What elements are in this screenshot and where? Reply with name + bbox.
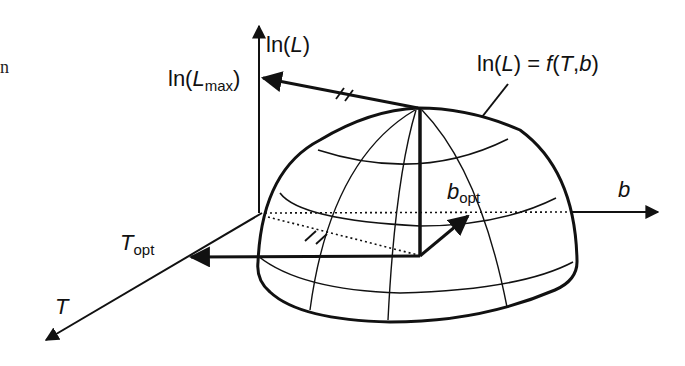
ln-lmax-label: ln(Lmax) [168, 66, 240, 94]
likelihood-dome-diagram: n ln(L) [0, 0, 685, 366]
cropped-text-fragment: n [0, 57, 9, 77]
t-opt-label: Topt [120, 230, 155, 258]
optimum-projections [191, 78, 508, 257]
b-opt-label: bopt [447, 179, 481, 206]
surface-function-label: ln(L) = f(T,b) [477, 51, 599, 76]
bopt-arrow [420, 216, 468, 256]
ln-l-axis-label: ln(L) [266, 32, 310, 57]
dome-surface [258, 108, 577, 322]
b-axis-label: b [618, 177, 630, 202]
t-axis [46, 213, 262, 340]
t-axis-label: T [55, 294, 70, 319]
topt-arrow [191, 256, 420, 257]
surface-callout-line [482, 84, 508, 117]
